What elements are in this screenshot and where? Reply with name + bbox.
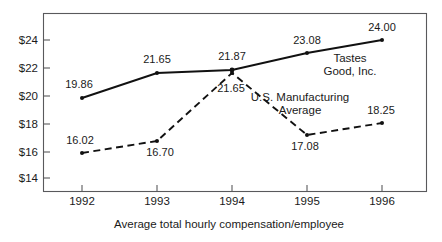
chart-caption: Average total hourly compensation/employ…: [114, 218, 344, 230]
series-label-us-manufacturing-line2: Average: [279, 104, 322, 116]
series-us-manufacturing-point-1992: [80, 151, 84, 155]
x-tick-label-1992: 1992: [69, 195, 95, 207]
series-us-manufacturing-point-1996: [380, 121, 384, 125]
series-label-tastes-good-line2: Good, Inc.: [323, 65, 376, 77]
data-label-us-manufacturing-1996: 18.25: [367, 104, 395, 116]
series-label-tastes-good-line1: Tastes: [333, 52, 366, 64]
x-axis-ticks: [82, 185, 382, 192]
y-tick-label-22: $22: [19, 62, 38, 74]
series-label-tastes-good: Tastes Good, Inc.: [323, 52, 376, 77]
series-tastes-good-point-1995: [305, 51, 309, 55]
data-label-tastes-good-1996: 24.00: [368, 21, 396, 33]
data-label-us-manufacturing-1994: 21.65: [217, 82, 245, 94]
line-chart-figure: $24 $22 $20 $18 $16 $14 1992 1993 1994 1…: [0, 0, 442, 242]
data-label-us-manufacturing-1993: 16.70: [146, 146, 174, 158]
y-tick-label-24: $24: [19, 34, 39, 46]
series-label-us-manufacturing: U.S. Manufacturing Average: [251, 91, 349, 116]
data-label-us-manufacturing-1992: 16.02: [66, 134, 94, 146]
chart-canvas: $24 $22 $20 $18 $16 $14 1992 1993 1994 1…: [0, 0, 442, 242]
series-label-us-manufacturing-line1: U.S. Manufacturing: [251, 91, 349, 103]
data-label-tastes-good-1994: 21.87: [218, 50, 246, 62]
series-tastes-good-point-1993: [155, 71, 159, 75]
series-us-manufacturing-point-1993: [155, 139, 159, 143]
data-label-tastes-good-1992: 19.86: [65, 78, 93, 90]
y-tick-label-18: $18: [19, 118, 38, 130]
y-axis-tick-labels: $24 $22 $20 $18 $16 $14: [19, 34, 39, 184]
plot-frame: [44, 14, 427, 192]
x-tick-label-1996: 1996: [369, 195, 395, 207]
x-axis-tick-labels: 1992 1993 1994 1995 1996: [69, 195, 395, 207]
y-tick-label-14: $14: [19, 172, 39, 184]
series-us-manufacturing-point-1994: [230, 71, 234, 75]
series-tastes-good-point-1992: [80, 96, 84, 100]
y-tick-label-16: $16: [19, 146, 38, 158]
series-tastes-good-point-1996: [380, 38, 384, 42]
data-label-tastes-good-1995: 23.08: [293, 34, 321, 46]
data-label-tastes-good-1993: 21.65: [143, 53, 171, 65]
x-tick-label-1995: 1995: [294, 195, 320, 207]
data-label-us-manufacturing-1995: 17.08: [291, 140, 319, 152]
x-tick-label-1993: 1993: [144, 195, 170, 207]
x-tick-label-1994: 1994: [219, 195, 245, 207]
y-tick-label-20: $20: [19, 90, 38, 102]
y-axis-ticks: [44, 40, 51, 178]
series-us-manufacturing-point-1995: [305, 133, 309, 137]
